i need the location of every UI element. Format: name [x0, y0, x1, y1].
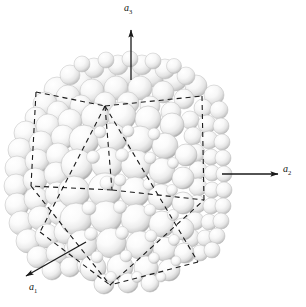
- axis-label-a2: a2: [283, 163, 291, 176]
- axis-label-a3: a3: [124, 2, 132, 15]
- axis-label-a1: a1: [29, 281, 37, 294]
- crystal-structure-figure: a3 a2 a1: [0, 0, 306, 307]
- crystal-structure-illustration: [0, 0, 306, 307]
